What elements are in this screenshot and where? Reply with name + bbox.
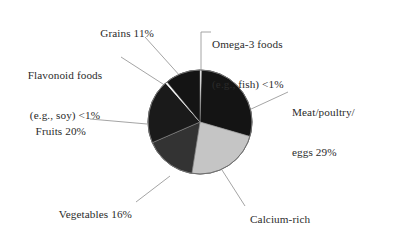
label-omega3-line1: Omega-3 foods <box>212 38 352 51</box>
label-meat-line2: eggs 29% <box>292 146 394 159</box>
label-vegetables: Vegetables 16% <box>22 195 132 235</box>
label-fruits: Fruits 20% <box>8 112 86 152</box>
pie-chart-figure: Grains 11% Omega-3 foods (e.g., fish) <1… <box>0 0 396 249</box>
leader-line-vegetables <box>136 176 170 202</box>
label-meat: Meat/poultry/ eggs 29% <box>292 79 394 186</box>
label-meat-line1: Meat/poultry/ <box>292 106 394 119</box>
label-calcium-line1: Calcium-rich <box>250 213 378 226</box>
leader-line-calcium <box>222 170 245 206</box>
label-calcium: Calcium-rich foods (e.g., dairy) 23% <box>250 186 378 249</box>
label-grains-text: Grains 11% <box>100 27 154 39</box>
leader-line-flavonoid <box>121 57 166 86</box>
label-fruits-text: Fruits 20% <box>36 125 86 137</box>
label-flavonoid-line1: Flavonoid foods <box>9 69 121 82</box>
label-vegetables-text: Vegetables 16% <box>59 208 132 220</box>
